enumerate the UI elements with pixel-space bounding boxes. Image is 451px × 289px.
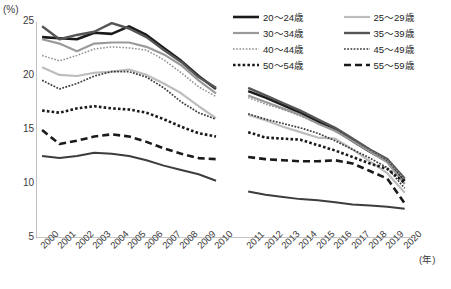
x-axis-tick: 2011 (244, 229, 266, 251)
legend-label: 20～24歳 (263, 10, 304, 24)
chart-container: (%) 510152025 20002001200220032004200520… (0, 0, 451, 289)
legend-label: 30～34歳 (263, 26, 304, 40)
legend-line-swatch (233, 12, 259, 22)
x-axis-tick: 2008 (177, 228, 200, 251)
x-axis-tick: 2010 (212, 228, 235, 251)
legend-line-swatch (233, 44, 259, 54)
legend-line-swatch (233, 28, 259, 38)
legend-item-30-34[interactable]: 30～34歳 (233, 26, 338, 40)
legend-label: 25～29歳 (374, 10, 415, 24)
x-axis-unit-label: (年) (419, 252, 435, 266)
legend-line-swatch (344, 12, 370, 22)
x-axis-tick: 2003 (90, 228, 113, 251)
legend-item-20-24[interactable]: 20～24歳 (233, 10, 338, 24)
legend-label: 55～59歳 (374, 58, 415, 72)
x-axis-tick: 2016 (331, 228, 354, 251)
legend-line-swatch (344, 44, 370, 54)
legend-item-25-29[interactable]: 25～29歳 (344, 10, 449, 24)
legend-label: 40～44歳 (263, 42, 304, 56)
legend-item-45-49[interactable]: 45～49歳 (344, 42, 449, 56)
legend-line-swatch (344, 28, 370, 38)
legend-line-swatch (344, 60, 370, 70)
legend-line-swatch (233, 60, 259, 70)
legend-label: 35～39歳 (374, 26, 415, 40)
legend-item-35-39[interactable]: 35～39歳 (344, 26, 449, 40)
legend-item-50-54[interactable]: 50～54歳 (233, 58, 338, 72)
legend-item-55-59[interactable]: 55～59歳 (344, 58, 449, 72)
x-axis-tick: 2020 (401, 228, 424, 251)
legend-label: 45～49歳 (374, 42, 415, 56)
legend-item-40-44[interactable]: 40～44歳 (233, 42, 338, 56)
legend-label: 50～54歳 (263, 58, 304, 72)
chart-legend: 20～24歳25～29歳30～34歳35～39歳40～44歳45～49歳50～5… (233, 10, 448, 72)
